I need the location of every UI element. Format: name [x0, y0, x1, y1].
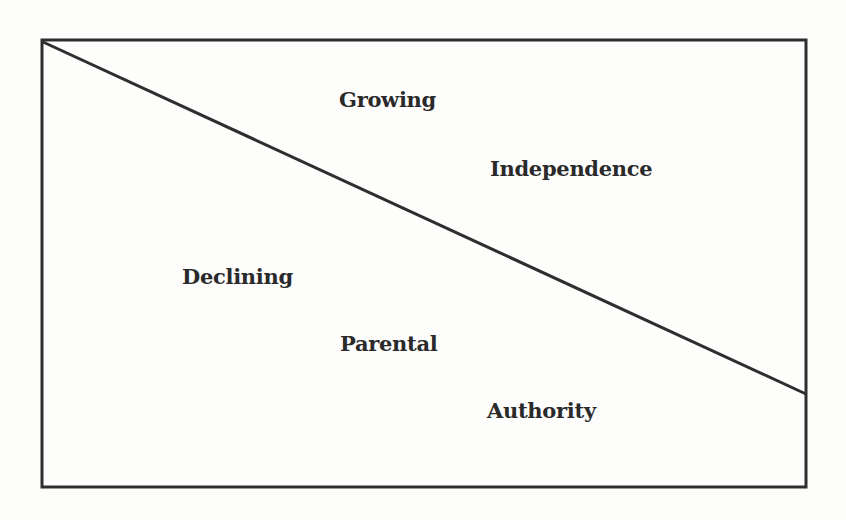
lower-label-parental: Parental [340, 333, 437, 354]
diagram-frame [0, 0, 846, 520]
upper-label-independence: Independence [490, 158, 652, 179]
upper-label-growing: Growing [339, 89, 436, 110]
lower-label-declining: Declining [182, 266, 293, 287]
growing-independence-diagram: Growing Independence Declining Parental … [0, 0, 846, 520]
lower-label-authority: Authority [487, 400, 596, 421]
